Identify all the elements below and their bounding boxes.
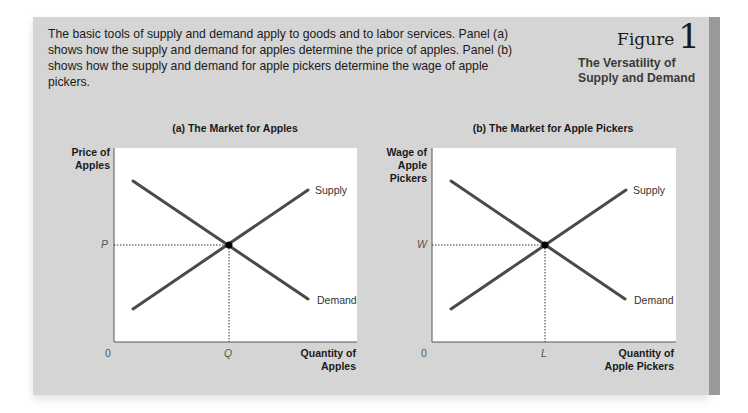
panel-a-supply-label: Supply <box>315 184 348 196</box>
panel-b-equilibrium-point <box>542 242 549 249</box>
panel-a-equilibrium-point <box>226 242 233 249</box>
panel-b-supply-label: Supply <box>633 184 666 196</box>
panel-a-chart: Supply Demand <box>114 148 357 342</box>
panel-b-chart: Supply Demand <box>432 148 676 342</box>
charts-svg: Supply Demand Supply Demand <box>0 0 748 413</box>
panel-b-demand-label: Demand <box>634 294 674 306</box>
panel-a-demand-label: Demand <box>317 294 357 306</box>
